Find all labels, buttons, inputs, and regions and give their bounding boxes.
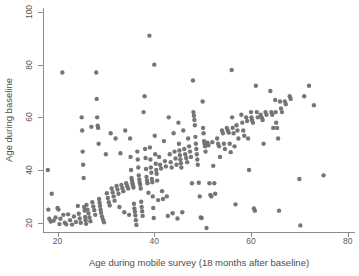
data-point [186,136,190,140]
data-point [203,149,207,153]
data-point [131,185,135,189]
data-point [164,164,168,168]
data-point [141,110,145,114]
data-point [116,192,120,196]
data-point [155,178,159,182]
data-point [193,135,197,139]
data-point [230,126,234,130]
data-point [95,115,99,119]
data-point [173,156,177,160]
data-point [132,202,136,206]
data-point [80,149,84,153]
data-point [167,115,171,119]
data-point [187,144,191,148]
y-tick-label: 20 [24,218,34,227]
data-point [195,152,199,156]
data-point [148,145,152,149]
data-point [157,155,161,159]
data-point [81,176,85,180]
data-point [209,194,213,198]
data-point [190,181,194,185]
y-tick-mark [38,12,43,13]
data-point [194,142,198,146]
data-point [279,106,283,110]
data-point [245,119,249,123]
data-point [211,164,215,168]
data-point [88,219,92,223]
data-point [179,161,183,165]
data-point [115,187,119,191]
data-point [236,136,240,140]
data-point [94,70,98,74]
data-point [239,113,243,117]
data-point [123,128,127,132]
data-point [177,148,181,152]
data-point [46,207,50,211]
x-tick-label: 20 [53,236,62,246]
data-point [76,204,80,208]
data-point [197,181,201,185]
data-point [143,147,147,151]
data-point [152,62,156,66]
data-point [136,165,140,169]
data-point [193,123,197,127]
data-point [274,120,278,124]
data-point [84,222,88,226]
data-point [223,147,227,151]
data-point [204,226,208,230]
data-point [201,131,205,135]
data-point [147,33,151,37]
data-point [144,175,148,179]
data-point [83,218,87,222]
data-point [139,205,143,209]
data-point [276,136,280,140]
data-point [247,168,251,172]
data-point [92,208,96,212]
data-point [126,186,130,190]
data-point [195,157,199,161]
data-point [80,115,84,119]
y-axis-title: Age during baseline [3,78,14,162]
data-point [198,194,202,198]
data-point [170,211,174,215]
data-point [158,163,162,167]
x-axis-line [43,232,355,233]
data-point [149,165,153,169]
data-point [129,168,133,172]
data-point [154,168,158,172]
data-point [174,163,178,167]
data-point [273,110,277,114]
data-point [181,128,185,132]
x-tick-label: 80 [343,236,352,246]
data-point [251,120,255,124]
x-tick-label: 40 [150,236,159,246]
data-point [140,214,144,218]
data-point [148,157,152,161]
data-point [234,123,238,127]
data-point [163,159,167,163]
data-point [97,197,101,201]
data-point [156,198,160,202]
data-point [70,222,74,226]
data-point [66,212,70,216]
x-axis-title: Age during mobile survey (18 months afte… [89,257,309,268]
data-point [264,113,268,117]
data-point [161,197,165,201]
data-point [192,114,196,118]
data-point [151,194,155,198]
data-point [212,181,216,185]
data-point [159,166,163,170]
y-tick-mark [38,223,43,224]
data-point [117,205,121,209]
data-point [104,152,108,156]
data-point [109,186,113,190]
data-point [215,136,219,140]
data-point [254,84,258,88]
data-point [153,152,157,156]
data-point [180,210,184,214]
data-point [171,131,175,135]
data-point [121,189,125,193]
y-tick-mark [38,117,43,118]
data-point [50,192,54,196]
scatter-plot-figure: 20406080100 20406080 Age during baseline… [0,0,359,276]
